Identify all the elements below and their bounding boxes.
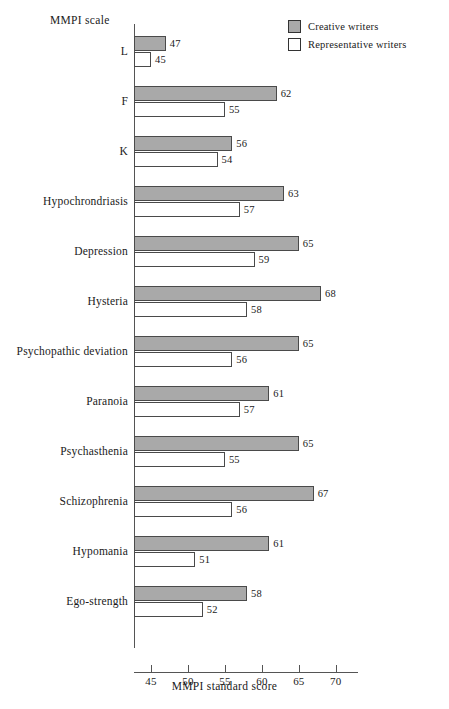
- scale-label: F: [0, 95, 128, 107]
- bar-creative: [134, 186, 284, 201]
- scale-label: Paranoia: [0, 395, 128, 407]
- bar-value-label: 61: [273, 536, 284, 551]
- bar-representative: [134, 202, 240, 217]
- x-axis-tick: [225, 665, 226, 672]
- bar-representative: [134, 452, 225, 467]
- bar-value-label: 56: [236, 502, 247, 517]
- bar-creative: [134, 436, 299, 451]
- bar-value-label: 54: [222, 152, 233, 167]
- bar-value-label: 59: [259, 252, 270, 267]
- bar-group: 6756: [134, 486, 358, 518]
- bar-value-label: 55: [229, 452, 240, 467]
- bar-group: 6157: [134, 386, 358, 418]
- bar-creative: [134, 236, 299, 251]
- mmpi-bar-chart: MMPI scale Creative writers Representati…: [0, 0, 449, 709]
- bar-value-label: 52: [207, 602, 218, 617]
- scale-label: Schizophrenia: [0, 495, 128, 507]
- bar-creative: [134, 36, 166, 51]
- bar-value-label: 56: [236, 136, 247, 151]
- bar-representative: [134, 552, 195, 567]
- bar-group: 4745: [134, 36, 358, 68]
- scale-label: Hysteria: [0, 295, 128, 307]
- scale-label: L: [0, 45, 128, 57]
- bar-group: 5852: [134, 586, 358, 618]
- bar-representative: [134, 302, 247, 317]
- scale-label: Psychopathic deviation: [0, 345, 128, 357]
- bar-value-label: 55: [229, 102, 240, 117]
- bar-value-label: 57: [244, 202, 255, 217]
- x-axis-tick: [336, 665, 337, 672]
- bar-representative: [134, 52, 151, 67]
- x-axis-tick: [151, 665, 152, 672]
- bar-creative: [134, 536, 269, 551]
- plot-area: 4745L6255F5654K6357Hypochrondriasis6559D…: [134, 24, 384, 648]
- scale-label: Ego-strength: [0, 595, 128, 607]
- bar-value-label: 58: [251, 302, 262, 317]
- figure-caption: [0, 702, 449, 709]
- bar-value-label: 67: [318, 486, 329, 501]
- bar-value-label: 51: [199, 552, 210, 567]
- bar-creative: [134, 336, 299, 351]
- scale-label: Hypochrondriasis: [0, 195, 128, 207]
- bar-representative: [134, 402, 240, 417]
- x-axis-tick: [299, 665, 300, 672]
- bar-creative: [134, 86, 277, 101]
- bar-group: 6555: [134, 436, 358, 468]
- bar-value-label: 56: [236, 352, 247, 367]
- bar-value-label: 47: [170, 36, 181, 51]
- bar-value-label: 45: [155, 52, 166, 67]
- bar-representative: [134, 102, 225, 117]
- bar-creative: [134, 386, 269, 401]
- bar-representative: [134, 502, 232, 517]
- x-axis-line: [134, 672, 358, 673]
- bar-group: 6556: [134, 336, 358, 368]
- bar-representative: [134, 152, 218, 167]
- y-axis-title: MMPI scale: [50, 14, 110, 26]
- bar-value-label: 61: [273, 386, 284, 401]
- bar-group: 6559: [134, 236, 358, 268]
- bar-creative: [134, 486, 314, 501]
- bar-value-label: 58: [251, 586, 262, 601]
- scale-label: Depression: [0, 245, 128, 257]
- scale-label: K: [0, 145, 128, 157]
- bar-value-label: 62: [281, 86, 292, 101]
- bar-creative: [134, 586, 247, 601]
- bar-value-label: 65: [303, 336, 314, 351]
- x-axis-tick: [188, 665, 189, 672]
- bar-value-label: 68: [325, 286, 336, 301]
- bar-group: 6151: [134, 536, 358, 568]
- scale-label: Psychasthenia: [0, 445, 128, 457]
- bar-group: 5654: [134, 136, 358, 168]
- bar-representative: [134, 352, 232, 367]
- bar-representative: [134, 602, 203, 617]
- bar-value-label: 63: [288, 186, 299, 201]
- bar-group: 6357: [134, 186, 358, 218]
- bar-creative: [134, 136, 232, 151]
- bar-value-label: 65: [303, 436, 314, 451]
- x-axis-tick: [262, 665, 263, 672]
- scale-label: Hypomania: [0, 545, 128, 557]
- bar-group: 6255: [134, 86, 358, 118]
- bar-value-label: 65: [303, 236, 314, 251]
- bar-creative: [134, 286, 321, 301]
- bar-representative: [134, 252, 255, 267]
- bar-group: 6858: [134, 286, 358, 318]
- bar-value-label: 57: [244, 402, 255, 417]
- x-axis-title: MMPI standard score: [0, 680, 449, 692]
